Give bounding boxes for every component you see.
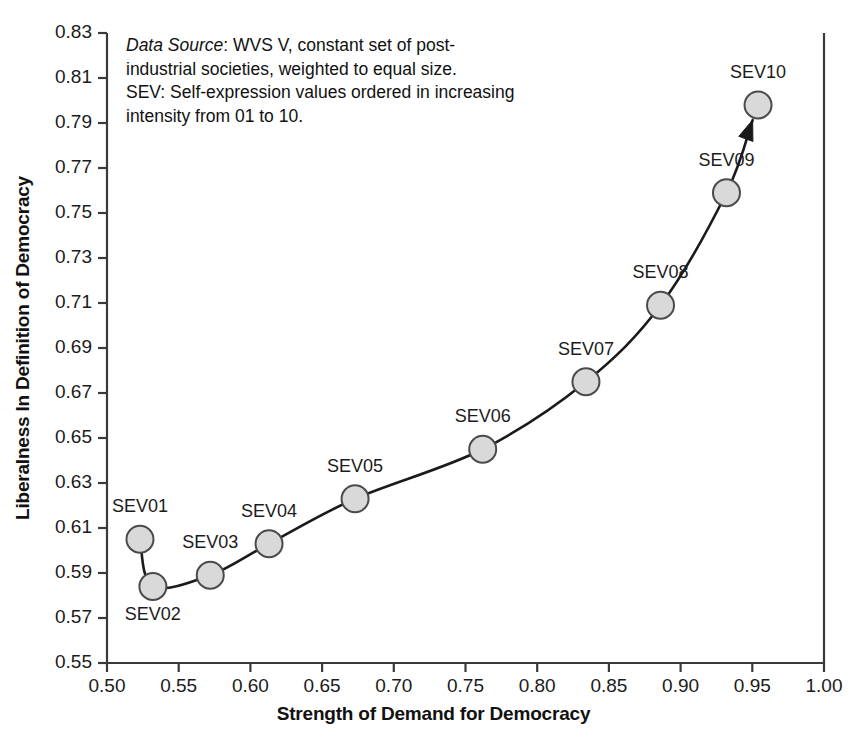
data-point-label: SEV03 — [165, 532, 255, 553]
x-tick-label: 0.65 — [282, 675, 362, 697]
note-line-4: intensity from 01 to 10. — [126, 106, 303, 126]
data-point-label: SEV06 — [438, 406, 528, 427]
data-point-marker[interactable] — [713, 179, 740, 206]
x-tick-label: 0.75 — [426, 675, 506, 697]
data-points-group — [126, 92, 771, 601]
data-point-marker[interactable] — [256, 530, 283, 557]
x-tick-label: 1.00 — [784, 675, 864, 697]
data-point-marker[interactable] — [469, 436, 496, 463]
data-point-label: SEV09 — [681, 150, 771, 171]
y-axis-title: Liberalness In Definition of Democracy — [8, 33, 38, 663]
data-point-marker[interactable] — [197, 562, 224, 589]
x-tick-label: 0.90 — [641, 675, 721, 697]
chart-figure: Data Source: WVS V, constant set of post… — [0, 0, 867, 742]
note-line-1-rest: : WVS V, constant set of post- — [223, 35, 455, 55]
x-tick-label: 0.60 — [210, 675, 290, 697]
data-source-note: Data Source: WVS V, constant set of post… — [126, 34, 556, 128]
data-point-label: SEV08 — [616, 262, 706, 283]
data-point-label: SEV05 — [310, 456, 400, 477]
data-point-label: SEV02 — [108, 604, 198, 625]
data-point-marker[interactable] — [745, 92, 772, 119]
data-point-marker[interactable] — [126, 526, 153, 553]
x-tick-label: 0.55 — [139, 675, 219, 697]
x-tick-label: 0.80 — [497, 675, 577, 697]
data-point-label: SEV07 — [541, 339, 631, 360]
note-line-3: SEV: Self-expression values ordered in i… — [126, 82, 514, 102]
x-tick-label: 0.85 — [569, 675, 649, 697]
data-point-label: SEV04 — [224, 501, 314, 522]
data-point-label: SEV10 — [713, 62, 803, 83]
data-point-marker[interactable] — [139, 573, 166, 600]
data-point-marker[interactable] — [342, 485, 369, 512]
note-line-2: industrial societies, weighted to equal … — [126, 59, 457, 79]
data-point-label: SEV01 — [95, 496, 185, 517]
data-point-marker[interactable] — [647, 292, 674, 319]
x-tick-label: 0.70 — [354, 675, 434, 697]
x-tick-label: 0.95 — [712, 675, 792, 697]
note-source-emphasis: Data Source — [126, 35, 223, 55]
x-axis-title: Strength of Demand for Democracy — [0, 703, 867, 725]
x-tick-label: 0.50 — [67, 675, 147, 697]
data-point-marker[interactable] — [572, 368, 599, 395]
